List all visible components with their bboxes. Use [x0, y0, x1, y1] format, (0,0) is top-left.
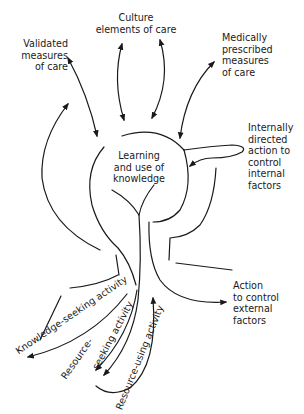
external-action-label: Action to control external factors	[233, 280, 279, 326]
center-learning-label: Learning and use of knowledge	[102, 150, 176, 185]
validated-to-center-arrow	[68, 58, 97, 136]
validated-measures-label: Validated measures of care	[12, 38, 68, 73]
culture-right-arrow	[152, 40, 165, 118]
medical-to-center-arrow	[180, 62, 214, 138]
external-action-line	[176, 263, 232, 270]
outer-left-arc	[42, 104, 100, 250]
internally-directed-label: Internally directed action to control in…	[248, 122, 293, 191]
knowledge-seeking-tick	[116, 255, 119, 275]
culture-left-arrow	[117, 44, 124, 120]
center-outline-top	[122, 132, 184, 150]
inner-branch-right	[139, 185, 154, 215]
inner-branch-left	[112, 190, 139, 215]
medically-prescribed-label: Medically prescribed measures of care	[222, 32, 273, 78]
internal-action-loop	[184, 145, 244, 166]
culture-elements-label: Culture elements of care	[86, 12, 186, 35]
